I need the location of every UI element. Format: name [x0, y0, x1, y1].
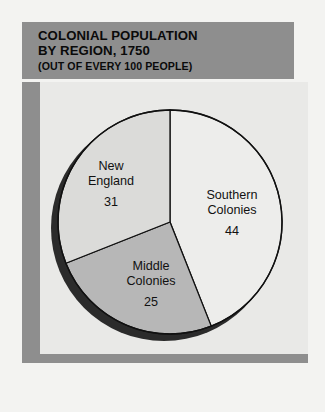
page-title-line-2: BY REGION, 1750 [38, 44, 294, 59]
pie-slices [58, 110, 282, 334]
pie-chart-svg [40, 82, 308, 354]
page-subtitle: (OUT OF EVERY 100 PEOPLE) [38, 61, 294, 73]
chart-title-block: COLONIAL POPULATION BY REGION, 1750 (OUT… [22, 22, 294, 79]
page-title-line-1: COLONIAL POPULATION [38, 29, 294, 44]
page-root: COLONIAL POPULATION BY REGION, 1750 (OUT… [0, 0, 325, 412]
pie-chart [40, 82, 308, 354]
